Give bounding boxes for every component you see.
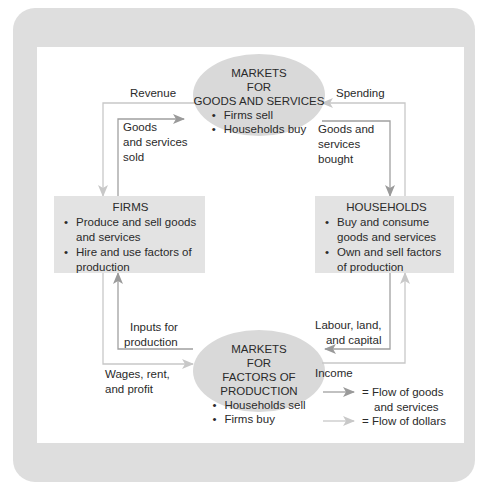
spending-label: Spending	[336, 86, 385, 101]
factor-market-title-2: FOR	[183, 356, 335, 370]
goods-sold-line-1: Goods	[123, 120, 188, 135]
households-box: HOUSEHOLDS Buy and consume goods and ser…	[315, 196, 454, 273]
goods-market-label: MARKETS FOR GOODS AND SERVICES Firms sel…	[193, 66, 325, 136]
goods-bought-line-3: bought	[318, 152, 374, 167]
goods-bought-label: Goods and services bought	[318, 122, 374, 167]
wages-label: Wages, rent, and profit	[105, 367, 170, 397]
firms-box: FIRMS Produce and sell goods and service…	[54, 196, 205, 273]
labour-line-1: Labour, land,	[315, 318, 382, 333]
labour-label: Labour, land, and capital	[315, 318, 382, 348]
goods-market-title-3: GOODS AND SERVICES	[193, 94, 325, 108]
factor-market-bullet-2: Firms buy	[212, 412, 305, 426]
goods-sold-label: Goods and services sold	[123, 120, 188, 165]
wages-line-2: and profit	[105, 382, 170, 397]
legend-dollars-text: = Flow of dollars	[362, 414, 446, 429]
households-bullet-1: Buy and consume goods and services	[325, 215, 448, 245]
wages-line-1: Wages, rent,	[105, 367, 170, 382]
legend-goods-line-1: = Flow of goods	[362, 385, 444, 400]
wages-flow-arrow	[103, 273, 193, 364]
firms-bullet-2: Hire and use factors of production	[64, 245, 197, 275]
inputs-line-1: Inputs for	[124, 320, 178, 335]
factor-market-title-1: MARKETS	[183, 342, 335, 356]
goods-sold-line-2: and services	[123, 135, 188, 150]
goods-market-bullet-1: Firms sell	[212, 108, 306, 122]
households-title: HOUSEHOLDS	[325, 200, 448, 215]
legend-goods-text: = Flow of goods and services	[362, 385, 444, 415]
households-bullet-2: Own and sell factors of production	[325, 245, 448, 275]
goods-bought-line-1: Goods and	[318, 122, 374, 137]
firms-title: FIRMS	[64, 200, 197, 215]
goods-market-title-1: MARKETS	[193, 66, 325, 80]
factor-market-title-3: FACTORS OF PRODUCTION	[183, 370, 335, 398]
revenue-label: Revenue	[130, 86, 176, 101]
inputs-label: Inputs for production	[124, 320, 178, 350]
inputs-line-2: production	[124, 335, 178, 350]
labour-line-2: and capital	[315, 333, 382, 348]
goods-market-bullet-2: Households buy	[212, 122, 306, 136]
goods-market-title-2: FOR	[193, 80, 325, 94]
income-label: Income	[315, 366, 353, 381]
firms-bullet-1: Produce and sell goods and services	[64, 215, 197, 245]
legend-goods-line-2: and services	[362, 400, 444, 415]
factor-market-bullet-1: Households sell	[212, 398, 305, 412]
goods-bought-line-2: services	[318, 137, 374, 152]
goods-sold-line-3: sold	[123, 150, 188, 165]
factor-market-label: MARKETS FOR FACTORS OF PRODUCTION Househ…	[183, 342, 335, 426]
